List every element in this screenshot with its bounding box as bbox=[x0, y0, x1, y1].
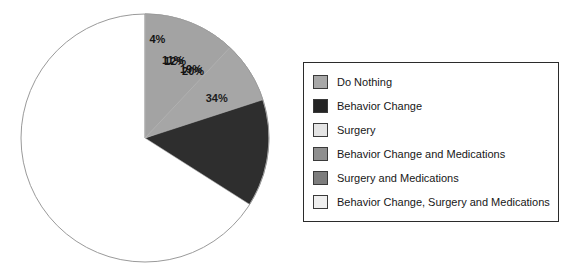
legend-item-label: Behavior Change bbox=[337, 101, 422, 112]
pie-slice-label: 34% bbox=[206, 92, 228, 104]
pie-chart-area: 4%34%19%20%11%12% bbox=[0, 0, 292, 277]
legend-swatch-icon bbox=[313, 75, 328, 89]
legend-swatch-icon bbox=[313, 195, 328, 209]
legend-swatch-icon bbox=[313, 147, 328, 161]
legend: Do Nothing Behavior Change Surgery Behav… bbox=[303, 62, 559, 222]
legend-item[interactable]: Behavior Change, Surgery and Medications bbox=[304, 190, 558, 214]
pie-chart-svg: 4%34%19%20%11%12% bbox=[0, 0, 292, 277]
legend-item-label: Behavior Change, Surgery and Medications bbox=[337, 197, 550, 208]
pie-slice-label: 4% bbox=[149, 33, 165, 45]
legend-swatch-icon bbox=[313, 171, 328, 185]
legend-item[interactable]: Do Nothing bbox=[304, 70, 558, 94]
pie-slice-group bbox=[21, 14, 269, 262]
legend-item[interactable]: Surgery and Medications bbox=[304, 166, 558, 190]
legend-item-label: Surgery and Medications bbox=[337, 173, 459, 184]
legend-item[interactable]: Surgery bbox=[304, 118, 558, 142]
legend-item[interactable]: Behavior Change bbox=[304, 94, 558, 118]
legend-swatch-icon bbox=[313, 123, 328, 137]
pie-slice-label: 12% bbox=[164, 55, 186, 67]
legend-item-label: Do Nothing bbox=[337, 77, 392, 88]
pie-chart-figure: 4%34%19%20%11%12% Do Nothing Behavior Ch… bbox=[0, 0, 570, 277]
legend-item[interactable]: Behavior Change and Medications bbox=[304, 142, 558, 166]
legend-item-label: Behavior Change and Medications bbox=[337, 149, 505, 160]
legend-item-label: Surgery bbox=[337, 125, 376, 136]
legend-swatch-icon bbox=[313, 99, 328, 113]
